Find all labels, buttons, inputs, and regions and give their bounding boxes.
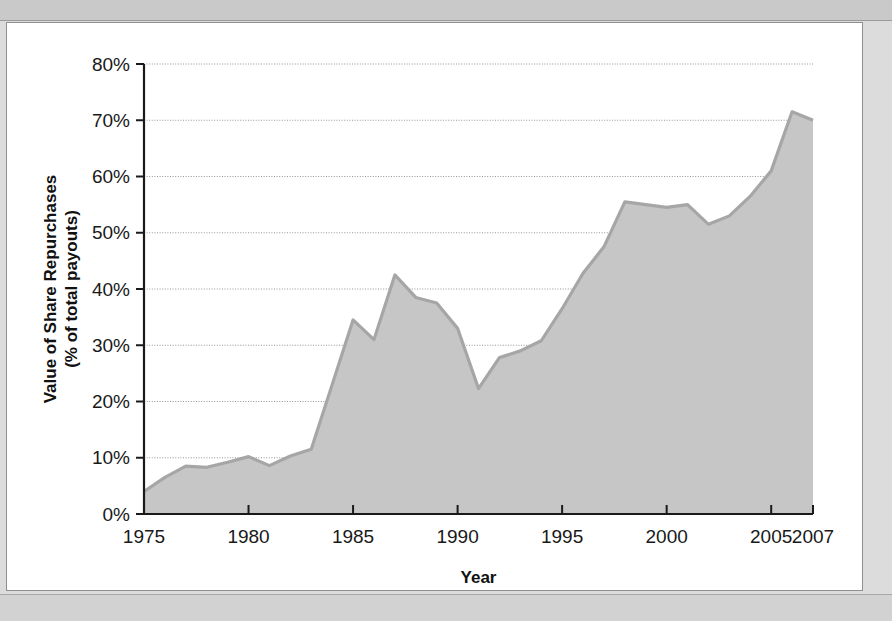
page-bottom-band (0, 594, 892, 621)
y-tick-label-40: 40% (92, 279, 130, 300)
x-tick-label-2000: 2000 (646, 526, 688, 547)
page-top-band (0, 0, 892, 21)
series-area-fill (144, 112, 813, 514)
x-tick-label-1995: 1995 (541, 526, 583, 547)
y-axis-title-line1: Value of Share Repurchases (41, 175, 60, 404)
x-tick-label-1990: 1990 (436, 526, 478, 547)
x-axis-title: Year (461, 568, 497, 587)
y-tick-label-10: 10% (92, 447, 130, 468)
y-axis-title-line2: (% of total payouts) (62, 210, 81, 368)
y-tick-label-60: 60% (92, 166, 130, 187)
x-tick-label-1975: 1975 (123, 526, 165, 547)
x-tick-label-2007: 2007 (792, 526, 834, 547)
chart-svg: 0%10%20%30%40%50%60%70%80% 1975198019851… (7, 23, 861, 589)
x-tick-label-1985: 1985 (332, 526, 374, 547)
y-tick-label-20: 20% (92, 391, 130, 412)
x-axis-tick-labels: 19751980198519901995200020052007 (123, 526, 834, 547)
page-root: 0%10%20%30%40%50%60%70%80% 1975198019851… (0, 0, 892, 621)
y-tick-label-0: 0% (103, 504, 131, 525)
x-tick-label-1980: 1980 (227, 526, 269, 547)
y-tick-label-70: 70% (92, 110, 130, 131)
y-axis-tick-labels: 0%10%20%30%40%50%60%70%80% (92, 54, 130, 525)
chart-area-series (144, 112, 813, 514)
y-tick-label-50: 50% (92, 222, 130, 243)
y-axis-ticks (136, 64, 144, 514)
area-chart: 0%10%20%30%40%50%60%70%80% 1975198019851… (7, 23, 862, 590)
x-tick-label-2005: 2005 (750, 526, 792, 547)
y-tick-label-30: 30% (92, 335, 130, 356)
y-tick-label-80: 80% (92, 54, 130, 75)
figure-panel: 0%10%20%30%40%50%60%70%80% 1975198019851… (6, 22, 863, 591)
